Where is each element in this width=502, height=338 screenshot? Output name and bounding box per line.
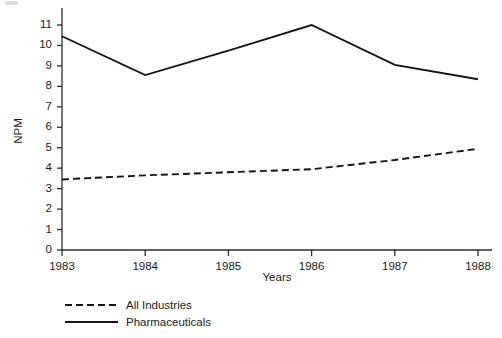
y-axis-tick-label: 4 [46, 161, 53, 173]
y-axis-tick-label: 6 [46, 120, 52, 132]
line-chart-canvas: 01234567891011 198319841985198619871988 … [0, 0, 502, 338]
legend: All Industries Pharmaceuticals [65, 299, 211, 328]
x-axis-tick-label: 1985 [216, 260, 242, 272]
y-axis-ticks [57, 25, 62, 250]
y-axis-tick-label: 11 [40, 18, 52, 30]
x-axis-tick-label: 1983 [49, 260, 75, 272]
x-axis-tick-label: 1984 [132, 260, 158, 272]
y-axis-tick-label: 10 [39, 38, 52, 50]
chart-figure: 01234567891011 198319841985198619871988 … [0, 0, 502, 338]
y-axis-tick-label: 3 [46, 182, 52, 194]
x-axis-tick-label: 1986 [299, 260, 325, 272]
y-axis-tick-label: 5 [46, 141, 52, 153]
y-axis-tick-label: 8 [46, 79, 52, 91]
series-line-all-industries [62, 149, 478, 180]
y-axis-tick-label: 1 [46, 223, 52, 235]
y-axis-tick-label: 9 [46, 59, 52, 71]
y-axis-tick-label: 7 [46, 100, 52, 112]
legend-label-all-industries: All Industries [126, 299, 192, 311]
y-axis-tick-label: 0 [46, 243, 52, 255]
series-line-pharmaceuticals [62, 25, 478, 79]
y-axis-tick-labels: 01234567891011 [39, 18, 52, 255]
x-axis-tick-label: 1987 [382, 260, 408, 272]
x-axis-tick-label: 1988 [465, 260, 491, 272]
x-axis-ticks [62, 250, 478, 256]
y-axis-title: NPM [12, 118, 24, 144]
x-axis-title: Years [263, 271, 292, 283]
legend-label-pharmaceuticals: Pharmaceuticals [126, 316, 211, 328]
y-axis-tick-label: 2 [46, 202, 52, 214]
